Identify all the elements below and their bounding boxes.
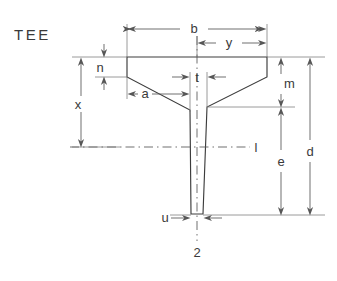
section-label-2: 2 (193, 245, 200, 260)
dim-label-t: t (195, 70, 199, 85)
dim-label-d: d (306, 144, 313, 159)
dimension-y: y (198, 35, 267, 50)
dim-label-n: n (96, 60, 103, 75)
axis-label-l: l (255, 140, 258, 155)
dimension-n: n (96, 44, 107, 90)
dimension-b: b (128, 21, 267, 36)
dimension-d: d (306, 58, 313, 216)
dimension-m: m (278, 58, 295, 108)
figure-title: TEE (14, 26, 51, 43)
dimension-t: t (172, 70, 226, 85)
extension-lines (72, 24, 325, 215)
dimension-u: u (161, 210, 222, 225)
dim-label-u: u (161, 210, 168, 225)
tee-section-figure: b y n t (0, 0, 337, 281)
dimension-e: e (277, 108, 284, 216)
dim-label-m: m (284, 76, 295, 91)
dim-label-b: b (190, 21, 197, 36)
dimension-x: x (75, 58, 84, 148)
dim-label-a: a (141, 86, 149, 101)
dim-label-e: e (277, 154, 284, 169)
dim-label-y: y (226, 35, 233, 50)
tee-drawing-canvas: b y n t (0, 0, 337, 281)
dim-label-x: x (75, 97, 82, 112)
